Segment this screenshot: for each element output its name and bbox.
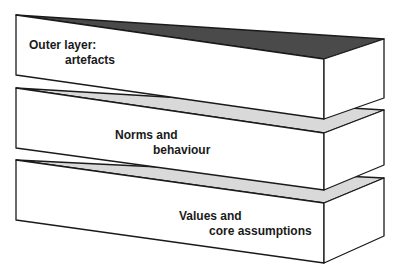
layer-label-line2: core assumptions	[179, 224, 312, 239]
layer-label-norms: Norms and behaviour	[115, 128, 210, 158]
layer-label-line2: behaviour	[115, 143, 210, 158]
layer-label-line1: Norms and	[115, 128, 210, 143]
layer-label-artefacts: Outer layer: artefacts	[29, 38, 115, 68]
layer-label-line1: Outer layer:	[29, 38, 115, 53]
layer-label-line2: artefacts	[29, 53, 115, 68]
layer-label-values: Values and core assumptions	[179, 209, 312, 239]
layer-label-line1: Values and	[179, 209, 312, 224]
